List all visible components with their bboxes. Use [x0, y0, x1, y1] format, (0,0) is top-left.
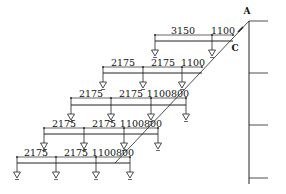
- dimension-label: 2175: [24, 147, 48, 158]
- dimension-label: 1100800: [147, 88, 189, 99]
- support-triangle-icon: [152, 50, 159, 56]
- dimension-label: 1100: [211, 25, 235, 36]
- support-triangle-icon: [53, 172, 60, 178]
- point-label-C: C: [231, 43, 238, 53]
- dimension-label: 1100800: [120, 118, 162, 129]
- dimension-label: 2175: [92, 118, 116, 129]
- stair-beam-diagram: 3150110021752175110021752175110080021752…: [0, 0, 286, 194]
- drawing-svg: 3150110021752175110021752175110080021752…: [0, 0, 286, 194]
- dimension-label: 1100: [181, 57, 205, 68]
- support-triangle-icon: [155, 143, 162, 149]
- dimension-label: 2175: [119, 88, 143, 99]
- dimension-label: 1100800: [92, 147, 134, 158]
- dimension-label: 2175: [151, 57, 175, 68]
- point-label-A: A: [243, 6, 252, 16]
- arrow-mark: [238, 27, 243, 32]
- support-triangle-icon: [14, 172, 21, 178]
- dimension-label: 3150: [171, 25, 195, 36]
- dimension-label: 2175: [64, 147, 88, 158]
- support-triangle-icon: [209, 50, 216, 56]
- support-triangle-icon: [93, 172, 100, 178]
- dimension-label: 2175: [52, 118, 76, 129]
- support-triangle-icon: [183, 114, 190, 120]
- support-triangle-icon: [127, 172, 134, 178]
- dimension-label: 2175: [79, 88, 103, 99]
- dimension-label: 2175: [111, 57, 135, 68]
